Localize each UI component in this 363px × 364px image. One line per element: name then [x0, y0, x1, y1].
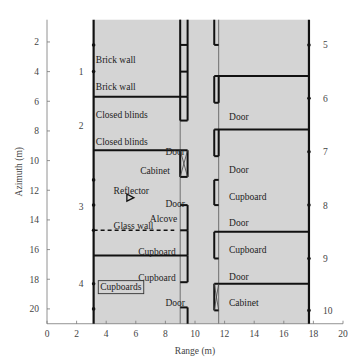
right-wall-marker-dot [307, 97, 311, 101]
right-position-label: 7 [323, 147, 328, 157]
left-wall-marker-dot [92, 229, 96, 233]
room-label: Brick wall [96, 55, 136, 65]
y-axis-label: Azimuth (m) [14, 147, 25, 196]
room-label: Cupboard [138, 247, 176, 257]
room-label: Door [165, 298, 185, 308]
x-tick-label: 6 [133, 329, 138, 339]
room-label: Cupboard [229, 192, 267, 202]
x-tick-label: 18 [309, 329, 319, 339]
room-label: Alcove [150, 214, 177, 224]
y-tick-label: 20 [30, 304, 40, 314]
x-tick-label: 16 [279, 329, 289, 339]
right-position-label: 8 [323, 201, 328, 211]
left-wall-marker-dot [92, 282, 96, 286]
room-label: Closed blinds [96, 137, 148, 147]
left-wall-marker-dot [92, 70, 96, 74]
right-position-label: 9 [323, 254, 328, 264]
x-tick-label: 12 [220, 329, 230, 339]
room-label: Door [229, 165, 249, 175]
left-wall-marker-dot [92, 307, 96, 311]
y-tick-label: 4 [34, 67, 39, 77]
left-position-label: 1 [79, 67, 84, 77]
y-tick-label: 12 [30, 186, 40, 196]
x-tick-label: 8 [163, 329, 168, 339]
left-position-label: 2 [79, 121, 84, 131]
right-position-label: 5 [323, 40, 328, 50]
x-tick-label: 4 [104, 329, 109, 339]
floor-plan-chart: 024681012141618202468101214161820Range (… [0, 0, 363, 364]
y-tick-label: 14 [30, 215, 40, 225]
x-tick-label: 14 [249, 329, 259, 339]
left-wall-marker-dot [92, 43, 96, 47]
room-label: Cupboards [100, 282, 141, 292]
room-label: Glass wall [114, 221, 154, 231]
left-position-label: 3 [79, 202, 84, 212]
x-axis-label: Range (m) [175, 346, 215, 357]
y-tick-label: 16 [30, 245, 40, 255]
left-wall-marker-dot [92, 178, 96, 182]
right-wall-marker-dot [307, 43, 311, 47]
y-tick-label: 18 [30, 275, 40, 285]
x-tick-label: 10 [190, 329, 200, 339]
right-position-label: 6 [323, 94, 328, 104]
room-label: Door [165, 147, 185, 157]
building-area [94, 20, 309, 324]
right-wall-marker-dot [307, 309, 311, 313]
room-label: Closed blinds [96, 110, 148, 120]
left-wall-marker-dot [92, 203, 96, 207]
y-tick-label: 8 [34, 126, 39, 136]
room-label: Brick wall [96, 82, 136, 92]
room-label: Cupboard [229, 245, 267, 255]
x-tick-label: 0 [45, 329, 50, 339]
room-label: Door [165, 199, 185, 209]
left-position-label: 4 [79, 279, 84, 289]
room-label: Reflector [114, 186, 150, 196]
right-wall-marker-dot [307, 257, 311, 261]
room-label: Cabinet [140, 166, 170, 176]
y-tick-label: 2 [34, 37, 39, 47]
x-tick-label: 20 [338, 329, 348, 339]
x-tick-label: 2 [74, 329, 79, 339]
y-tick-label: 6 [34, 97, 39, 107]
room-label: Door [229, 218, 249, 228]
room-label: Door [229, 272, 249, 282]
right-wall-marker-dot [307, 150, 311, 154]
room-label: Door [229, 112, 249, 122]
y-tick-label: 10 [30, 156, 40, 166]
right-wall-marker-dot [307, 203, 311, 207]
right-position-label: 10 [323, 306, 333, 316]
room-label: Cabinet [229, 298, 259, 308]
